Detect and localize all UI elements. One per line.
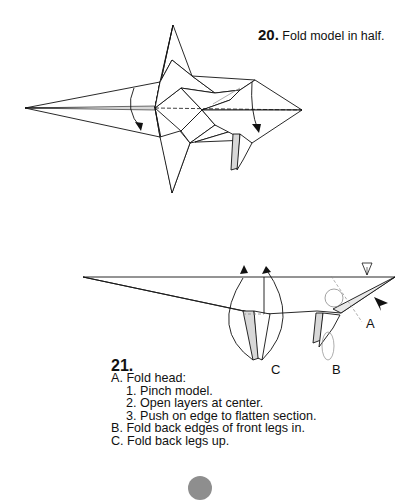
instruction-a: A. Fold head: — [111, 372, 316, 385]
instruction-c: C. Fold back legs up. — [111, 435, 316, 448]
step20-instruction: Fold model in half. — [282, 29, 384, 43]
step20-number: 20. — [258, 26, 279, 43]
instruction-a2: 2. Open layers at center. — [111, 397, 316, 410]
push-arrow-icon — [374, 297, 388, 311]
step20-model-drawing — [25, 25, 302, 193]
diagram-label-b: B — [332, 362, 341, 377]
step21-instructions: 21. A. Fold head: 1. Pinch model. 2. Ope… — [111, 359, 316, 448]
step20-caption: 20. Fold model in half. — [258, 26, 384, 43]
diagram-label-a: A — [366, 316, 375, 331]
page-marker-circle — [188, 476, 212, 500]
